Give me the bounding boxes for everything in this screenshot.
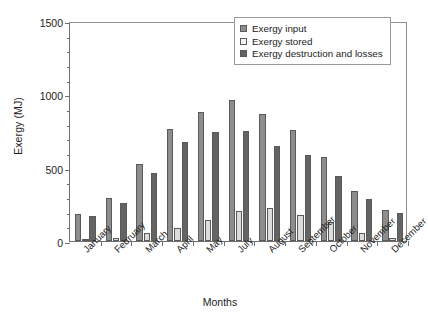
y-tick-minor — [67, 126, 70, 127]
bar-april-series-1 — [174, 228, 180, 241]
legend-swatch-icon — [240, 50, 247, 57]
bar-august-series-0 — [259, 114, 265, 241]
y-tick-major — [65, 96, 70, 97]
y-tick-minor — [67, 38, 70, 39]
bar-september-series-2 — [305, 155, 311, 241]
y-tick-minor — [67, 214, 70, 215]
legend-label: Exergy input — [252, 23, 306, 34]
legend-label: Exergy destruction and losses — [252, 48, 383, 59]
y-tick-major — [65, 23, 70, 24]
bar-september-series-0 — [290, 130, 296, 241]
bar-september-series-1 — [297, 215, 303, 241]
y-tick-minor — [67, 184, 70, 185]
bar-july-series-2 — [243, 131, 249, 241]
y-tick-minor — [67, 82, 70, 83]
bar-april-series-0 — [167, 129, 173, 241]
legend-item: Exergy destruction and losses — [240, 48, 383, 60]
y-tick-minor — [67, 140, 70, 141]
x-axis-title: Months — [150, 296, 290, 308]
y-tick-label: 1000 — [40, 90, 63, 102]
bar-august-series-2 — [274, 146, 280, 241]
y-tick-label: 0 — [57, 237, 63, 249]
chart-legend: Exergy inputExergy storedExergy destruct… — [234, 17, 391, 65]
legend-swatch-icon — [240, 38, 247, 45]
y-tick-major — [65, 170, 70, 171]
y-tick-minor — [67, 67, 70, 68]
y-tick-minor — [67, 228, 70, 229]
bar-march-series-2 — [151, 173, 157, 241]
y-tick-label: 500 — [45, 164, 63, 176]
bar-may-series-1 — [205, 220, 211, 241]
bar-may-series-2 — [212, 132, 218, 241]
y-tick-label: 1500 — [40, 17, 63, 29]
bar-may-series-0 — [198, 112, 204, 241]
y-tick-minor — [67, 52, 70, 53]
y-axis-title: Exergy (MJ) — [12, 66, 26, 186]
y-tick-minor — [67, 155, 70, 156]
legend-swatch-icon — [240, 25, 247, 32]
legend-label: Exergy stored — [252, 36, 312, 47]
bar-january-series-0 — [75, 214, 81, 241]
y-tick-minor — [67, 111, 70, 112]
bar-april-series-2 — [182, 142, 188, 241]
bar-july-series-1 — [236, 211, 242, 241]
y-tick-major — [65, 243, 70, 244]
y-tick-minor — [67, 199, 70, 200]
legend-item: Exergy stored — [240, 35, 383, 47]
bar-august-series-1 — [267, 208, 273, 241]
bar-july-series-0 — [229, 100, 235, 241]
legend-item: Exergy input — [240, 23, 383, 35]
